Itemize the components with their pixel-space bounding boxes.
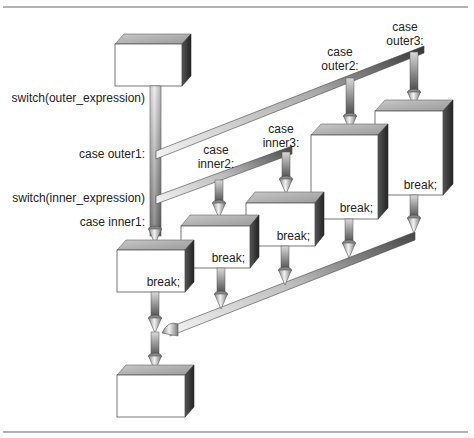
- break-label: break;: [147, 275, 180, 289]
- break-label: break;: [277, 229, 310, 243]
- svg-text:outer2:: outer2:: [321, 59, 358, 73]
- break-label: break;: [212, 251, 245, 265]
- svg-text:outer3:: outer3:: [386, 34, 423, 48]
- switch-outer-label: switch(outer_expression): [12, 91, 145, 105]
- merge-arrow-icon: [162, 323, 178, 336]
- svg-text:case: case: [203, 143, 229, 157]
- svg-text:case: case: [268, 122, 294, 136]
- break-label: break;: [340, 201, 373, 215]
- case-inner2-label: case inner2:: [198, 143, 235, 171]
- svg-text:inner2:: inner2:: [198, 157, 235, 171]
- case-outer2-label: case outer2:: [321, 45, 358, 73]
- arrow-head-icon: [149, 315, 162, 333]
- end-box: [117, 365, 194, 417]
- case-outer1-label: case outer1:: [79, 147, 145, 161]
- arrow-head-icon: [343, 240, 356, 258]
- inner1-box: break;: [117, 240, 194, 292]
- arrow-head-icon: [280, 176, 293, 194]
- case-outer3-label: case outer3:: [386, 20, 423, 48]
- outer2-drop-pipe: [346, 78, 354, 118]
- outer3-drop-pipe: [410, 52, 418, 94]
- break-label: break;: [404, 178, 437, 192]
- svg-text:case: case: [392, 20, 418, 34]
- svg-text:inner3:: inner3:: [263, 136, 300, 150]
- start-box: [115, 34, 191, 86]
- nested-switch-diagram: break; break; break; break; break;: [0, 0, 474, 438]
- switch-inner-label: switch(inner_expression): [12, 191, 145, 205]
- svg-text:case: case: [327, 45, 353, 59]
- case-inner3-label: case inner3:: [263, 122, 300, 150]
- arrow-head-icon: [408, 215, 421, 233]
- case-inner1-label: case inner1:: [80, 215, 145, 229]
